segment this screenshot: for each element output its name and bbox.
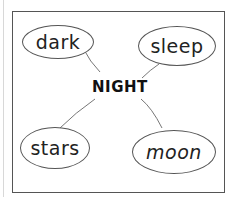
link-stars (60, 99, 95, 128)
node-moon: moon (132, 130, 216, 174)
node-label: dark (36, 31, 81, 53)
node-label: sleep (150, 35, 203, 57)
node-sleep: sleep (138, 26, 216, 66)
node-label: stars (30, 137, 79, 159)
node-dark: dark (22, 25, 94, 59)
node-label: moon (146, 141, 202, 163)
central-topic: NIGHT (92, 78, 148, 96)
link-sleep (142, 64, 159, 78)
node-stars: stars (20, 127, 90, 169)
link-moon (141, 99, 162, 128)
